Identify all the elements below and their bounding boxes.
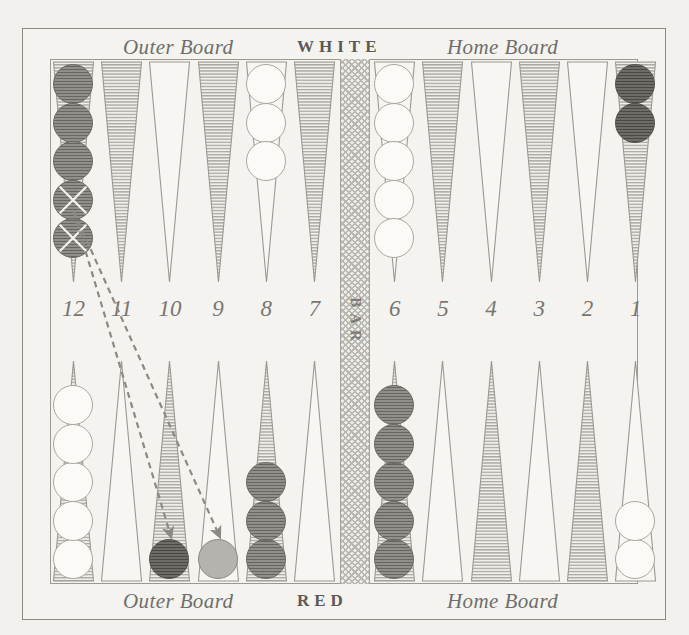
point-bottom-7[interactable] <box>293 360 336 582</box>
point-bottom-3[interactable] <box>518 360 561 582</box>
point-top-3[interactable] <box>518 61 561 283</box>
point-number-7: 7 <box>293 296 336 322</box>
point-number-6: 6 <box>373 296 416 322</box>
point-bottom-4[interactable] <box>470 360 513 582</box>
point-bottom-8[interactable] <box>245 360 288 582</box>
point-top-2[interactable] <box>566 61 609 283</box>
checker[interactable] <box>374 385 414 425</box>
point-top-4[interactable] <box>470 61 513 283</box>
point-bottom-10[interactable] <box>148 360 191 582</box>
point-triangle <box>518 61 561 283</box>
point-bottom-1[interactable] <box>614 360 657 582</box>
point-triangle <box>197 61 240 283</box>
point-triangle <box>470 61 513 283</box>
checker[interactable] <box>53 64 93 104</box>
checker[interactable] <box>246 103 286 143</box>
point-number-8: 8 <box>245 296 288 322</box>
checker[interactable] <box>615 103 655 143</box>
checker[interactable] <box>615 64 655 104</box>
checker[interactable] <box>374 501 414 541</box>
point-bottom-5[interactable] <box>421 360 464 582</box>
point-number-4: 4 <box>470 296 513 322</box>
checker[interactable] <box>374 218 414 258</box>
checker[interactable] <box>198 539 238 579</box>
point-triangle <box>566 360 609 582</box>
point-triangle <box>470 360 513 582</box>
point-top-8[interactable] <box>245 61 288 283</box>
checker[interactable] <box>53 424 93 464</box>
point-triangle <box>421 61 464 283</box>
checker-x-mark <box>54 219 92 257</box>
checker[interactable] <box>374 64 414 104</box>
point-triangle <box>100 360 143 582</box>
checker[interactable] <box>374 539 414 579</box>
point-number-2: 2 <box>566 296 609 322</box>
checker[interactable] <box>246 141 286 181</box>
point-top-1[interactable] <box>614 61 657 283</box>
top-player-label: WHITE <box>297 37 382 57</box>
board-outer-frame: Outer Board WHITE Home Board <box>22 28 666 620</box>
checker[interactable] <box>246 539 286 579</box>
point-bottom-6[interactable] <box>373 360 416 582</box>
checker[interactable] <box>246 501 286 541</box>
checker[interactable] <box>246 462 286 502</box>
point-bottom-11[interactable] <box>100 360 143 582</box>
bottom-outer-board-label: Outer Board <box>123 589 233 614</box>
checker[interactable] <box>53 539 93 579</box>
checker[interactable] <box>53 501 93 541</box>
point-top-9[interactable] <box>197 61 240 283</box>
checker[interactable] <box>615 501 655 541</box>
checker[interactable] <box>374 103 414 143</box>
bottom-home-board-label: Home Board <box>447 589 558 614</box>
backgammon-board-figure: Outer Board WHITE Home Board <box>0 0 689 635</box>
top-outer-board-label: Outer Board <box>123 35 233 60</box>
point-triangle <box>100 61 143 283</box>
point-number-9: 9 <box>197 296 240 322</box>
point-number-3: 3 <box>518 296 561 322</box>
bottom-player-label: RED <box>297 591 348 611</box>
point-number-12: 12 <box>52 296 95 322</box>
point-bottom-2[interactable] <box>566 360 609 582</box>
checker[interactable] <box>615 539 655 579</box>
point-number-11: 11 <box>100 296 143 322</box>
checker[interactable] <box>53 180 93 220</box>
checker[interactable] <box>53 462 93 502</box>
point-number-5: 5 <box>421 296 464 322</box>
point-number-1: 1 <box>614 296 657 322</box>
playing-surface: BAR 121110987654321 <box>50 59 638 584</box>
checker-x-mark <box>54 181 92 219</box>
checker[interactable] <box>246 64 286 104</box>
point-bottom-9[interactable] <box>197 360 240 582</box>
checker[interactable] <box>53 103 93 143</box>
top-home-board-label: Home Board <box>447 35 558 60</box>
point-triangle <box>421 360 464 582</box>
bottom-caption-row: Outer Board RED Home Board <box>23 587 665 615</box>
checker[interactable] <box>374 180 414 220</box>
point-number-10: 10 <box>148 296 191 322</box>
checker[interactable] <box>53 141 93 181</box>
checker[interactable] <box>374 462 414 502</box>
point-bottom-12[interactable] <box>52 360 95 582</box>
point-top-6[interactable] <box>373 61 416 283</box>
top-caption-row: Outer Board WHITE Home Board <box>23 33 665 61</box>
point-triangle <box>518 360 561 582</box>
point-triangle <box>566 61 609 283</box>
checker[interactable] <box>374 141 414 181</box>
point-top-7[interactable] <box>293 61 336 283</box>
point-top-12[interactable] <box>52 61 95 283</box>
checker[interactable] <box>53 218 93 258</box>
point-triangle <box>148 61 191 283</box>
checker[interactable] <box>374 424 414 464</box>
point-top-11[interactable] <box>100 61 143 283</box>
point-top-10[interactable] <box>148 61 191 283</box>
point-triangle <box>293 61 336 283</box>
point-triangle <box>293 360 336 582</box>
point-top-5[interactable] <box>421 61 464 283</box>
point-numbers-row: 121110987654321 <box>50 296 638 346</box>
checker[interactable] <box>53 385 93 425</box>
